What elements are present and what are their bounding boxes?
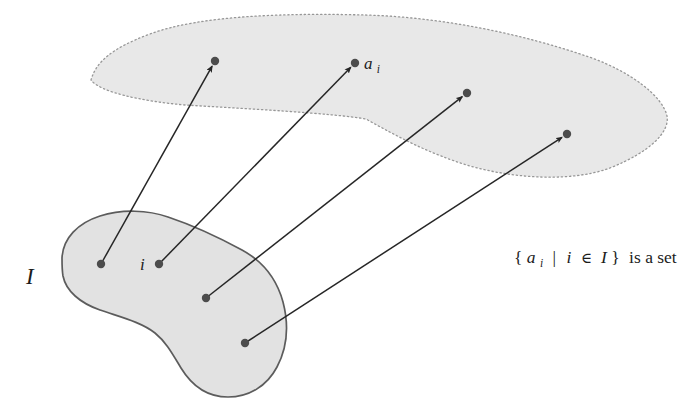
index-element-label: i: [140, 255, 145, 274]
indexed-family-diagram: I i a i { a i | i ∈ I } is a set: [0, 0, 696, 406]
caption-element-of-icon: ∈: [581, 250, 592, 266]
index-set-label: I: [25, 264, 35, 289]
caption-a: a: [527, 247, 536, 267]
caption-suffix: is a set: [629, 247, 677, 267]
caption-open-brace: {: [514, 247, 522, 267]
index-dot-4: [241, 339, 249, 347]
family-set-region: [91, 14, 667, 177]
mapping-arrow-3: [206, 97, 462, 298]
caption: { a i | i ∈ I } is a set: [514, 247, 677, 271]
family-dot-4: [563, 130, 571, 138]
index-set-region: [62, 211, 286, 397]
caption-i: i: [566, 247, 571, 267]
index-dot-1: [97, 260, 105, 268]
family-dot-ai: [351, 59, 359, 67]
family-dot-1: [211, 57, 219, 65]
caption-close-brace: }: [611, 247, 619, 267]
index-dot-3: [202, 294, 210, 302]
mapping-arrow-4: [245, 137, 562, 343]
caption-index-set: I: [600, 247, 608, 267]
index-dot-i: [155, 260, 163, 268]
family-element-label-base: a: [364, 54, 373, 73]
caption-bar: |: [552, 247, 556, 267]
caption-a-sub: i: [540, 257, 543, 269]
indexed-family-figure: I i a i { a i | i ∈ I } is a set: [0, 0, 696, 406]
family-dot-3: [463, 89, 471, 97]
family-element-label-sub: i: [377, 63, 380, 75]
